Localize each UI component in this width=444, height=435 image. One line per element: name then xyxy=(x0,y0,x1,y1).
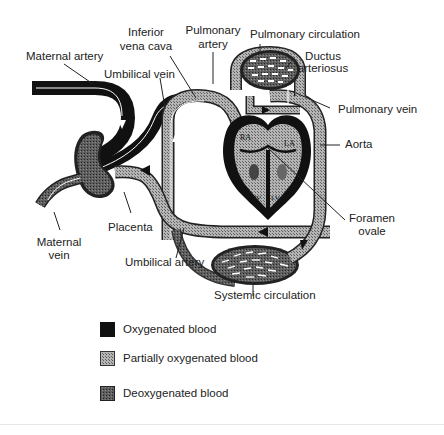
label-maternal-vein-2: vein xyxy=(32,249,86,262)
oxygenated-swatch-icon xyxy=(100,322,115,337)
label-pulmonary-vein: Pulmonary vein xyxy=(338,103,417,116)
label-foramen-ovale-1: Foramen xyxy=(344,212,400,225)
deoxygenated-swatch-icon xyxy=(100,386,115,401)
legend-item-partial: Partially oxygenated blood xyxy=(100,351,400,367)
label-aorta: Aorta xyxy=(345,138,373,151)
label-inferior-vena-cava-1: Inferior xyxy=(119,26,173,39)
label-placenta: Placenta xyxy=(108,221,153,234)
label-ductus-arteriosus-2: arteriosus xyxy=(294,62,352,75)
legend-label: Partially oxygenated blood xyxy=(123,352,258,364)
label-umbilical-artery: Umbilical artery xyxy=(125,256,204,269)
legend-item-deoxygenated: Deoxygenated blood xyxy=(100,386,400,402)
label-inferior-vena-cava-2: vena cava xyxy=(113,40,179,53)
label-systemic-circulation: Systemic circulation xyxy=(214,289,316,302)
heart-label-rv: RV xyxy=(252,194,261,202)
heart-label-lv: LV xyxy=(271,194,280,202)
heart: RA LA RV LV xyxy=(223,115,311,220)
legend-label: Deoxygenated blood xyxy=(123,387,229,399)
legend-item-oxygenated: Oxygenated blood xyxy=(100,322,400,338)
label-maternal-artery: Maternal artery xyxy=(26,50,103,63)
label-maternal-vein-1: Maternal xyxy=(32,236,86,249)
heart-label-ra: RA xyxy=(240,133,251,142)
label-pulmonary-circulation: Pulmonary circulation xyxy=(250,28,360,41)
label-umbilical-vein: Umbilical vein xyxy=(104,68,175,81)
heart-label-la: LA xyxy=(284,139,295,148)
label-foramen-ovale-2: ovale xyxy=(344,225,400,238)
bottom-divider xyxy=(0,424,444,425)
legend-label: Oxygenated blood xyxy=(123,323,216,335)
partially-oxygenated-swatch-icon xyxy=(100,351,115,366)
label-pulmonary-artery-2: artery xyxy=(178,38,248,51)
maternal-vein-vessel xyxy=(40,178,82,209)
systemic-circulation-bed xyxy=(211,245,299,285)
label-pulmonary-artery-1: Pulmonary xyxy=(178,24,248,37)
